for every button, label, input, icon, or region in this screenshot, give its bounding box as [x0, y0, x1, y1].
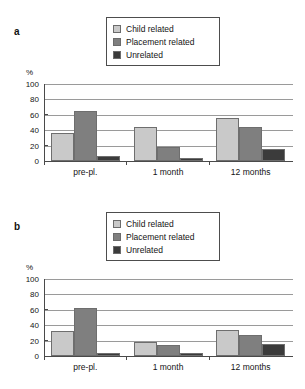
bar-child-related-pre-pl-b [51, 331, 74, 356]
child-related-swatch-icon-b [113, 220, 121, 228]
x-label-12-months-b: 12 months [209, 362, 292, 372]
x-label-12-months-a: 12 months [209, 167, 292, 177]
chart-panel-b: b Child related Placement related Unrela… [0, 195, 305, 389]
panel-label-b: b [14, 221, 20, 232]
y-tick-80-b: 80 [30, 290, 39, 299]
bar-placement-related-pre-pl-a [74, 111, 97, 161]
placement-related-swatch-icon [113, 38, 121, 46]
legend-label-child-related-b: Child related [126, 219, 174, 229]
x-label-pre-pl-b: pre-pl. [44, 362, 127, 372]
legend-label-placement-related: Placement related [126, 37, 195, 47]
y-tick-100-a: 100 [26, 80, 39, 89]
legend-item-unrelated-b: Unrelated [113, 243, 214, 256]
bar-group-pre-pl-a [44, 84, 127, 161]
legend-item-child-related-b: Child related [113, 217, 214, 230]
bar-unrelated-1-month-a [180, 158, 203, 161]
bar-unrelated-12-months-a [262, 149, 285, 161]
bar-group-1-month-b [127, 279, 210, 356]
y-tick-40-a: 40 [30, 126, 39, 135]
legend-item-unrelated: Unrelated [113, 48, 214, 61]
bar-group-12-months-a [209, 84, 292, 161]
x-label-1-month-a: 1 month [127, 167, 210, 177]
y-tick-20-a: 20 [30, 141, 39, 150]
y-axis-ticks-a: 100 80 60 40 20 0 [14, 84, 39, 161]
x-tick-mark-start-b [44, 356, 45, 360]
bar-group-1-month-a [127, 84, 210, 161]
chart-panel-a: a Child related Placement related Unrela… [0, 0, 305, 194]
bar-child-related-pre-pl-a [51, 133, 74, 161]
bar-unrelated-pre-pl-a [97, 156, 120, 161]
legend-item-child-related: Child related [113, 22, 214, 35]
y-tick-0-a: 0 [35, 157, 39, 166]
legend-item-placement-related: Placement related [113, 35, 214, 48]
bar-child-related-1-month-b [134, 342, 157, 356]
bar-placement-related-pre-pl-b [74, 308, 97, 357]
legend-item-placement-related-b: Placement related [113, 230, 214, 243]
x-tick-mark-1-b [126, 356, 127, 360]
panel-label-a: a [14, 26, 20, 37]
bar-child-related-1-month-a [134, 127, 157, 161]
bar-placement-related-1-month-b [157, 345, 180, 356]
x-axis-labels-a: pre-pl. 1 month 12 months [44, 167, 292, 177]
y-tick-100-b: 100 [26, 275, 39, 284]
y-tick-20-b: 20 [30, 336, 39, 345]
bar-child-related-12-months-b [216, 330, 239, 356]
bar-unrelated-12-months-b [262, 344, 285, 356]
legend-label-child-related: Child related [126, 24, 174, 34]
x-tick-mark-start-a [44, 161, 45, 165]
x-tick-mark-1-a [126, 161, 127, 165]
y-tick-0-b: 0 [35, 352, 39, 361]
y-tick-60-b: 60 [30, 305, 39, 314]
bar-unrelated-1-month-b [180, 353, 203, 356]
y-tick-80-a: 80 [30, 95, 39, 104]
bar-unrelated-pre-pl-b [97, 353, 120, 356]
y-axis-ticks-b: 100 80 60 40 20 0 [14, 279, 39, 356]
bar-groups-a [44, 84, 292, 161]
child-related-swatch-icon [113, 25, 121, 33]
bar-placement-related-1-month-a [157, 147, 180, 161]
x-axis-labels-b: pre-pl. 1 month 12 months [44, 362, 292, 372]
bar-placement-related-12-months-a [239, 127, 262, 161]
x-tick-mark-2-a [209, 161, 210, 165]
bar-placement-related-12-months-b [239, 335, 262, 356]
y-tick-60-a: 60 [30, 110, 39, 119]
y-axis-label-a: % [26, 68, 33, 77]
bar-group-pre-pl-b [44, 279, 127, 356]
legend-label-unrelated-b: Unrelated [126, 245, 163, 255]
legend-b: Child related Placement related Unrelate… [106, 212, 220, 261]
x-tick-mark-2-b [209, 356, 210, 360]
placement-related-swatch-icon-b [113, 233, 121, 241]
bar-child-related-12-months-a [216, 118, 239, 161]
x-label-1-month-b: 1 month [127, 362, 210, 372]
legend-label-unrelated: Unrelated [126, 50, 163, 60]
legend-a: Child related Placement related Unrelate… [106, 17, 220, 66]
unrelated-swatch-icon-b [113, 246, 121, 254]
y-axis-label-b: % [26, 263, 33, 272]
unrelated-swatch-icon [113, 51, 121, 59]
bar-group-12-months-b [209, 279, 292, 356]
bar-groups-b [44, 279, 292, 356]
x-label-pre-pl-a: pre-pl. [44, 167, 127, 177]
legend-label-placement-related-b: Placement related [126, 232, 195, 242]
y-tick-40-b: 40 [30, 321, 39, 330]
